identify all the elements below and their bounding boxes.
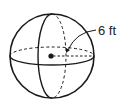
arrowhead-icon (66, 48, 70, 53)
sphere-diagram: 6 ft (0, 0, 126, 102)
leader-arrow (68, 30, 96, 50)
radius-label: 6 ft (98, 23, 116, 38)
center-point (48, 53, 53, 58)
